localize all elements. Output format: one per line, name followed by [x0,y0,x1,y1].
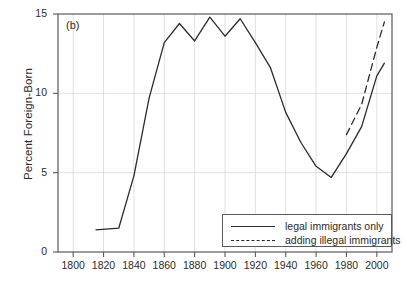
chart-legend: legal immigrants onlyadding illegal immi… [222,214,392,247]
x-tick-label: 1900 [208,259,242,271]
x-tick-label: 1920 [238,259,272,271]
series-line-2 [346,22,384,135]
legend-dashed-line-icon [231,234,275,246]
x-tick-label: 1820 [87,259,121,271]
x-tick-label: 1840 [117,259,151,271]
x-tick-label: 1980 [329,259,363,271]
x-tick-label: 2000 [360,259,394,271]
x-tick-label: 1880 [178,259,212,271]
legend-item-label: legal immigrants only [285,220,384,232]
x-tick-label: 1800 [56,259,90,271]
x-tick-label: 1860 [147,259,181,271]
panel-label: (b) [66,19,79,31]
y-tick-label: 0 [25,245,47,257]
x-tick-label: 1940 [269,259,303,271]
x-tick-label: 1960 [299,259,333,271]
chart-figure: Percent Foreign-Born (b) 051015 18001820… [0,0,407,287]
series-line-1 [96,17,384,230]
y-tick-label: 10 [25,86,47,98]
y-tick-label: 5 [25,166,47,178]
legend-solid-line-icon [231,220,275,232]
legend-item-label: adding illegal immigrants [285,234,401,246]
legend-item: adding illegal immigrants [223,233,391,247]
y-tick-label: 15 [25,7,47,19]
legend-item: legal immigrants only [223,219,391,233]
